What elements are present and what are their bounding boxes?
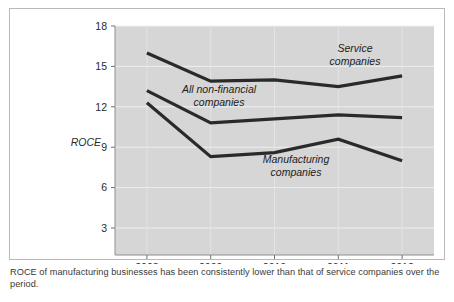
y-tick-label: 15 <box>95 60 107 72</box>
series-label-service-line1: Service <box>337 42 372 54</box>
y-tick-label: 3 <box>101 222 107 234</box>
y-axis-title: ROCE <box>71 136 102 148</box>
y-tick-label: 18 <box>95 20 107 32</box>
chart-svg: 369121518 20082009201020112012 ROCE Serv… <box>0 0 454 264</box>
series-label-manufacturing-line1: Manufacturing <box>263 153 330 165</box>
figure-page: 369121518 20082009201020112012 ROCE Serv… <box>0 0 454 302</box>
series-label-allnonfinancial-line1: All non-financial <box>181 83 257 95</box>
x-tick-label: 2010 <box>263 261 287 264</box>
figure-caption: ROCE of manufacturing businesses has bee… <box>10 266 444 291</box>
line-chart: 369121518 20082009201020112012 ROCE Serv… <box>0 0 454 264</box>
y-axis-ticks: 369121518 <box>95 20 115 234</box>
x-tick-label: 2011 <box>327 261 350 264</box>
series-label-allnonfinancial-line2: companies <box>194 96 246 108</box>
y-tick-label: 12 <box>95 101 107 113</box>
series-annotation-manufacturing: Manufacturing companies <box>263 153 330 178</box>
x-tick-label: 2012 <box>390 261 414 264</box>
x-axis-ticks: 20082009201020112012 <box>135 255 414 264</box>
x-tick-label: 2008 <box>135 261 159 264</box>
y-tick-label: 9 <box>101 141 107 153</box>
y-tick-label: 6 <box>101 181 107 193</box>
series-label-manufacturing-line2: companies <box>271 166 323 178</box>
series-label-service-line2: companies <box>330 55 382 67</box>
x-tick-label: 2009 <box>199 261 223 264</box>
